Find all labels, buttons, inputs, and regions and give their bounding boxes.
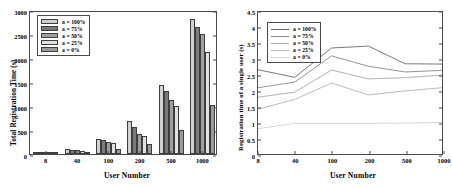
left-x-tick-mark (77, 151, 78, 154)
right-y-tick-label: 4.5 (247, 9, 255, 16)
legend-item-label: a = 50% (62, 33, 83, 39)
right-y-tick-label: 1 (252, 121, 255, 128)
right-y-tick-mark (258, 60, 261, 61)
right-x-tick-label: 500 (402, 157, 412, 164)
left-y-tick-mark (213, 156, 216, 157)
right-x-tick-label: 100 (328, 157, 338, 164)
right-y-tick-label: 0.5 (247, 137, 255, 144)
legend-item[interactable]: a = 75% (41, 25, 86, 32)
legend-item-label: a = 0% (62, 47, 80, 53)
legend-line-icon (271, 40, 289, 45)
right-x-tick-label: 1000 (438, 157, 451, 164)
right-x-tick-mark (444, 151, 445, 154)
bar (85, 152, 90, 154)
right-chart-panel: Registration time of a single user (s) 0… (226, 0, 452, 187)
right-y-tick-mark (439, 76, 442, 77)
left-x-tick-label: 1000 (196, 157, 209, 164)
right-x-tick-label: 200 (365, 157, 375, 164)
figure-container: Total Registration Time (s) 050010001500… (0, 0, 452, 187)
legend-line-icon (271, 26, 289, 31)
left-y-tick-label: 500 (17, 129, 27, 136)
legend-item[interactable]: a = 75% (271, 32, 317, 39)
right-x-tick-mark (295, 151, 296, 154)
legend-swatch-icon (41, 33, 58, 38)
legend-item-label: a = 75% (62, 26, 83, 32)
right-y-tick-label: 2.5 (247, 73, 255, 80)
right-y-axis-title: Registration time of a single user (s) (237, 44, 244, 151)
right-x-tick-mark (332, 151, 333, 154)
left-x-tick-mark (139, 151, 140, 154)
legend-item[interactable]: a = 0% (271, 53, 317, 60)
line-series (258, 83, 442, 109)
right-y-tick-mark (258, 124, 261, 125)
legend-item-label: a = 0% (293, 54, 311, 60)
line-series (258, 122, 442, 128)
right-x-axis-title: User Number (240, 171, 452, 180)
right-y-tick-mark (258, 28, 261, 29)
legend-item[interactable]: a = 100% (271, 25, 317, 32)
bar-group (126, 12, 154, 154)
legend-item-label: a = 75% (293, 33, 314, 39)
bar-group (188, 12, 216, 154)
right-y-tick-label: 3.5 (247, 41, 255, 48)
bar (116, 149, 121, 154)
right-y-tick-mark (258, 44, 261, 45)
left-y-tick-label: 0 (24, 153, 27, 160)
right-x-tick-mark (258, 151, 259, 154)
left-y-tick-label: 2500 (14, 33, 27, 40)
legend-item-label: a = 100% (62, 19, 86, 25)
right-y-tick-label: 4 (252, 25, 255, 32)
left-y-tick-label: 1500 (14, 81, 27, 88)
legend-item[interactable]: a = 25% (271, 46, 317, 53)
left-x-tick-label: 40 (74, 157, 80, 164)
legend-line-icon (271, 47, 289, 52)
right-y-tick-mark (258, 92, 261, 93)
left-chart-legend: a = 100%a = 75%a = 50%a = 25%a = 0% (37, 15, 90, 56)
bar-group (157, 12, 185, 154)
right-y-tick-mark (439, 44, 442, 45)
right-y-tick-mark (258, 140, 261, 141)
right-y-tick-mark (258, 12, 261, 13)
left-x-tick-mark (202, 151, 203, 154)
left-x-tick-mark (171, 151, 172, 154)
left-y-tick-label: 3000 (14, 9, 27, 16)
right-y-tick-mark (439, 108, 442, 109)
left-x-tick-mark (108, 151, 109, 154)
right-chart-legend: a = 100%a = 75%a = 50%a = 25%a = 0% (267, 22, 321, 63)
legend-item[interactable]: a = 50% (41, 32, 86, 39)
right-x-tick-label: 40 (292, 157, 298, 164)
legend-line-icon (271, 33, 289, 38)
right-y-tick-mark (439, 92, 442, 93)
right-y-tick-label: 1.5 (247, 105, 255, 112)
left-x-tick-label: 200 (135, 157, 145, 164)
bar-group (94, 12, 122, 154)
legend-item[interactable]: a = 50% (271, 39, 317, 46)
bar (210, 105, 215, 154)
right-y-tick-mark (439, 124, 442, 125)
left-y-tick-mark (30, 156, 33, 157)
legend-item[interactable]: a = 25% (41, 39, 86, 46)
legend-item-label: a = 25% (62, 40, 83, 46)
legend-line-icon (271, 54, 289, 59)
right-y-tick-label: 2 (252, 89, 255, 96)
right-y-tick-mark (439, 28, 442, 29)
left-y-tick-label: 1000 (14, 105, 27, 112)
left-x-tick-label: 8 (44, 157, 47, 164)
left-x-tick-mark (45, 151, 46, 154)
legend-item[interactable]: a = 100% (41, 18, 86, 25)
right-y-tick-mark (439, 12, 442, 13)
legend-swatch-icon (41, 26, 58, 31)
legend-item-label: a = 100% (293, 26, 317, 32)
legend-item-label: a = 25% (293, 47, 314, 53)
legend-item[interactable]: a = 0% (41, 46, 86, 53)
left-y-tick-label: 2000 (14, 57, 27, 64)
right-y-tick-mark (258, 76, 261, 77)
legend-swatch-icon (41, 40, 58, 45)
bar (53, 152, 58, 154)
left-x-tick-label: 100 (104, 157, 114, 164)
right-y-tick-label: 3 (252, 57, 255, 64)
right-x-tick-mark (406, 151, 407, 154)
right-y-tick-mark (258, 108, 261, 109)
left-x-tick-label: 500 (166, 157, 176, 164)
right-y-tick-mark (439, 140, 442, 141)
